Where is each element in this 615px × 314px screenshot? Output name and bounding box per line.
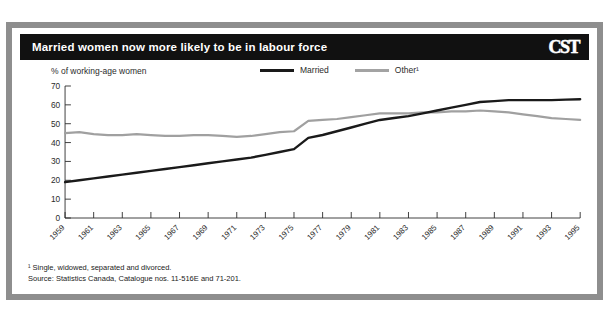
x-tick-label: 1963 xyxy=(105,223,124,242)
x-tick-label: 1973 xyxy=(248,223,267,242)
y-axis-label: % of working-age women xyxy=(51,66,146,76)
scanned-chart-page: Married women now more likely to be in l… xyxy=(0,0,615,314)
x-tick-label: 1977 xyxy=(305,223,324,242)
cst-logo: CST xyxy=(548,38,581,56)
footnotes: ¹ Single, widowed, separated and divorce… xyxy=(28,262,241,285)
legend-item-other: Other¹ xyxy=(355,65,419,75)
chart-body: % of working-age women Married Other¹ 01… xyxy=(20,62,589,288)
x-tick-label: 1991 xyxy=(506,223,525,242)
y-axis-ticks: 010203040506070 xyxy=(51,81,71,223)
y-tick-label: 70 xyxy=(51,81,61,91)
y-tick-label: 0 xyxy=(56,213,61,223)
y-tick-label: 60 xyxy=(51,100,61,110)
x-axis-ticks: 1959196119631965196719691971197319751977… xyxy=(48,212,582,242)
x-tick-label: 1961 xyxy=(76,223,95,242)
x-tick-label: 1959 xyxy=(48,223,67,242)
chart-legend: Married Other¹ xyxy=(260,65,419,75)
plot-area: 010203040506070 195919611963196519671969… xyxy=(20,80,589,265)
series-line-other xyxy=(65,111,580,137)
y-tick-label: 20 xyxy=(51,175,61,185)
legend-item-married: Married xyxy=(260,65,329,75)
legend-swatch-married-icon xyxy=(260,69,294,72)
chart-title-bar: Married women now more likely to be in l… xyxy=(20,34,589,60)
y-tick-label: 40 xyxy=(51,137,61,147)
x-tick-label: 1983 xyxy=(391,223,410,242)
x-tick-label: 1985 xyxy=(420,223,439,242)
footnote-note: ¹ Single, widowed, separated and divorce… xyxy=(28,262,241,273)
y-tick-label: 30 xyxy=(51,156,61,166)
legend-label-other: Other¹ xyxy=(395,65,419,75)
x-tick-label: 1995 xyxy=(563,223,582,242)
legend-swatch-other-icon xyxy=(355,69,389,72)
x-tick-label: 1969 xyxy=(191,223,210,242)
x-tick-label: 1979 xyxy=(334,223,353,242)
footnote-source: Source: Statistics Canada, Catalogue nos… xyxy=(28,273,241,284)
line-chart-svg: 010203040506070 195919611963196519671969… xyxy=(20,80,589,265)
page-frame-border: Married women now more likely to be in l… xyxy=(6,22,603,300)
x-tick-label: 1971 xyxy=(220,223,239,242)
legend-label-married: Married xyxy=(300,65,329,75)
x-tick-label: 1975 xyxy=(277,223,296,242)
x-tick-label: 1981 xyxy=(363,223,382,242)
page-title: Married women now more likely to be in l… xyxy=(32,41,327,53)
x-tick-label: 1965 xyxy=(134,223,153,242)
y-tick-label: 10 xyxy=(51,194,61,204)
y-tick-label: 50 xyxy=(51,119,61,129)
x-tick-label: 1987 xyxy=(449,223,468,242)
page-frame-inner: Married women now more likely to be in l… xyxy=(12,28,597,294)
x-tick-label: 1967 xyxy=(162,223,181,242)
x-tick-label: 1993 xyxy=(534,223,553,242)
x-tick-label: 1989 xyxy=(477,223,496,242)
